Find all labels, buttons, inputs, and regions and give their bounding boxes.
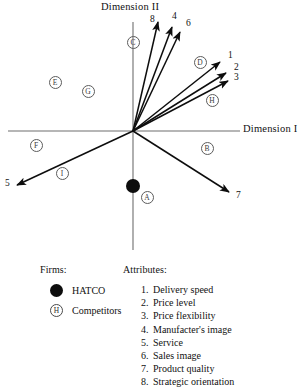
attribute-vectors: [17, 22, 229, 192]
attribute-number: 2.: [141, 296, 153, 309]
attribute-number: 1.: [141, 283, 153, 296]
attribute-number: 5.: [141, 336, 153, 349]
legend-attributes-heading: Attributes:: [123, 264, 303, 275]
vector-label-6: 6: [186, 18, 191, 28]
competitor-marker-g: G: [82, 85, 95, 98]
attribute-label: Sales image: [153, 350, 201, 361]
hatco-marker: [126, 179, 140, 193]
attribute-number: 4.: [141, 323, 153, 336]
vector-label-1: 1: [228, 50, 233, 60]
attribute-number: 3.: [141, 309, 153, 322]
competitor-marker-d: D: [194, 56, 207, 69]
competitor-marker-c: C: [127, 36, 140, 49]
legend-firm-label: Competitors: [72, 305, 121, 316]
competitor-marker-e: E: [49, 76, 62, 89]
attribute-label: Service: [153, 337, 183, 348]
y-axis-label: Dimension II: [101, 1, 159, 12]
perceptual-map-plot: Dimension II Dimension I 84612357 ABCDEF…: [0, 0, 307, 255]
legend-attributes-block: Attributes: 1.Delivery speed2.Price leve…: [123, 264, 303, 389]
attribute-label: Product quality: [153, 363, 214, 374]
vector-label-8: 8: [150, 14, 155, 24]
competitor-marker-b: B: [201, 142, 214, 155]
competitor-marker-i: I: [56, 167, 69, 180]
attribute-vector-7: [133, 131, 229, 192]
attribute-number: 8.: [141, 375, 153, 388]
vector-label-2: 2: [234, 62, 239, 72]
vector-label-5: 5: [5, 178, 10, 188]
attribute-label: Price flexibility: [153, 310, 216, 321]
competitor-marker-a: A: [141, 191, 154, 204]
attribute-item: 8.Strategic orientation: [141, 375, 303, 388]
vector-label-7: 7: [236, 190, 241, 200]
legend-firm-row: HATCO: [40, 283, 135, 298]
attribute-label: Strategic orientation: [153, 376, 234, 387]
attribute-item: 5.Service: [141, 336, 303, 349]
legend-firms-rows: HATCOHCompetitors: [40, 283, 135, 318]
vector-label-4: 4: [172, 11, 177, 21]
competitor-marker-h: H: [206, 94, 219, 107]
legend-firm-label: HATCO: [72, 285, 105, 296]
attribute-label: Manufacter's image: [153, 324, 232, 335]
attribute-item: 6.Sales image: [141, 349, 303, 362]
attribute-item: 3.Price flexibility: [141, 309, 303, 322]
x-axis-label: Dimension I: [243, 123, 297, 134]
legend-firms-block: Firms: HATCOHCompetitors: [40, 264, 135, 323]
legend-firm-row: HCompetitors: [40, 303, 135, 318]
attribute-item: 4.Manufacter's image: [141, 323, 303, 336]
competitor-swatch-icon: H: [50, 304, 63, 317]
attribute-number: 7.: [141, 362, 153, 375]
attribute-number: 6.: [141, 349, 153, 362]
attribute-item: 7.Product quality: [141, 362, 303, 375]
attribute-item: 2.Price level: [141, 296, 303, 309]
attribute-label: Delivery speed: [153, 284, 213, 295]
figure-legend: Firms: HATCOHCompetitors Attributes: 1.D…: [0, 255, 307, 392]
hatco-swatch-icon: [50, 284, 63, 297]
legend-firms-heading: Firms:: [40, 264, 135, 275]
attribute-item: 1.Delivery speed: [141, 283, 303, 296]
attribute-label: Price level: [153, 297, 195, 308]
attributes-list: 1.Delivery speed2.Price level3.Price fle…: [123, 283, 303, 389]
vector-label-3: 3: [234, 72, 239, 82]
competitor-marker-f: F: [30, 139, 43, 152]
